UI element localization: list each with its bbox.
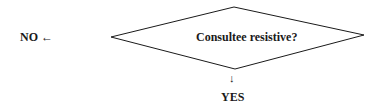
down-arrow-icon: ↓ xyxy=(229,73,235,84)
decision-question: Consultee resistive? xyxy=(196,31,297,43)
left-arrow-icon: ← xyxy=(41,30,53,44)
yes-branch-label: YES xyxy=(221,91,244,103)
no-branch-label: NO ← xyxy=(20,31,53,43)
no-label: NO xyxy=(20,30,38,44)
decision-diamond xyxy=(0,0,384,108)
